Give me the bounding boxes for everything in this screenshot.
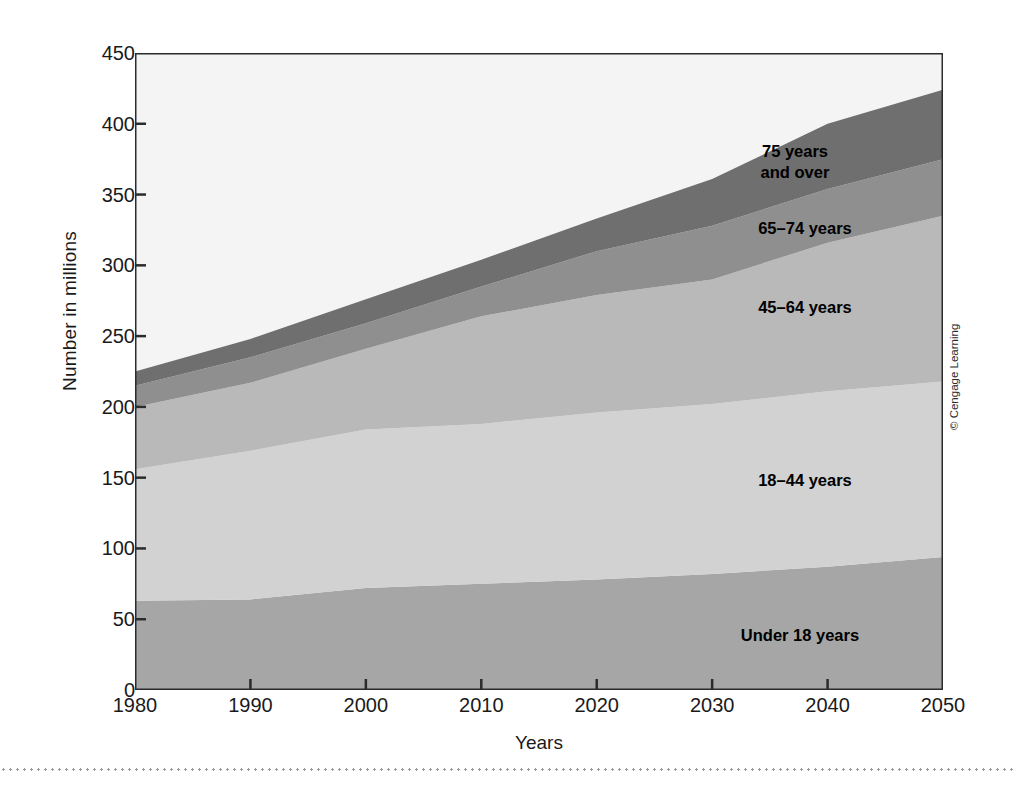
y-tick-label: 350 bbox=[102, 183, 135, 206]
y-tick-label: 450 bbox=[102, 42, 135, 65]
x-tick-label: 2010 bbox=[459, 694, 504, 717]
plot-area: 75 years and over 65–74 years 45–64 year… bbox=[135, 53, 943, 690]
y-tick-label: 400 bbox=[102, 112, 135, 135]
copyright-notice: © Cengage Learning bbox=[948, 200, 960, 430]
series-label-75-plus: 75 years and over bbox=[725, 141, 865, 182]
y-axis-title: Number in millions bbox=[59, 181, 81, 441]
x-tick-label: 2030 bbox=[690, 694, 735, 717]
x-tick-label: 2020 bbox=[574, 694, 619, 717]
x-axis-title: Years bbox=[135, 732, 943, 754]
figure-area-chart: Number in millions 050100150200250300350… bbox=[0, 0, 1014, 785]
series-label-65-74: 65–74 years bbox=[725, 218, 885, 239]
y-tick-label: 250 bbox=[102, 325, 135, 348]
y-tick-label: 200 bbox=[102, 395, 135, 418]
bottom-dotted-rule bbox=[0, 768, 1014, 771]
y-tick-label: 100 bbox=[102, 537, 135, 560]
x-tick-label: 1990 bbox=[228, 694, 273, 717]
series-label-18-44: 18–44 years bbox=[725, 470, 885, 491]
y-tick-label: 300 bbox=[102, 254, 135, 277]
x-tick-label: 2000 bbox=[344, 694, 389, 717]
series-label-under-18: Under 18 years bbox=[710, 625, 890, 646]
x-tick-label: 2040 bbox=[805, 694, 850, 717]
series-label-45-64: 45–64 years bbox=[725, 297, 885, 318]
y-tick-label: 50 bbox=[113, 608, 135, 631]
x-tick-label: 2050 bbox=[921, 694, 966, 717]
x-tick-label: 1980 bbox=[113, 694, 158, 717]
y-tick-label: 150 bbox=[102, 466, 135, 489]
